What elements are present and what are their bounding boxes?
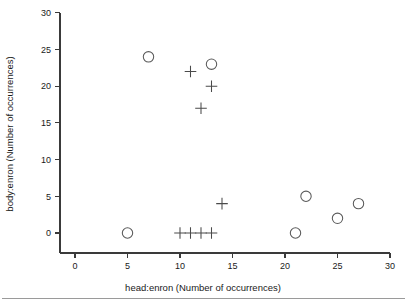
y-tick-label: 25 bbox=[41, 45, 51, 55]
x-tick-label: 15 bbox=[227, 261, 237, 271]
y-axis-label: body:enron (Number of occurrences) bbox=[4, 56, 15, 211]
y-tick-label: 30 bbox=[41, 8, 51, 18]
x-tick-label: 30 bbox=[385, 261, 395, 271]
y-tick-label: 15 bbox=[41, 118, 51, 128]
x-axis-label: head:enron (Number of occurrences) bbox=[125, 282, 281, 293]
scatter-plot-figure: 051015202530 051015202530 head:enron (Nu… bbox=[0, 0, 407, 304]
x-tick-label: 25 bbox=[332, 261, 342, 271]
x-tick-label: 5 bbox=[125, 261, 130, 271]
y-tick-label: 20 bbox=[41, 81, 51, 91]
y-tick-label: 0 bbox=[46, 228, 51, 238]
figure-background bbox=[0, 0, 407, 304]
y-tick-label: 10 bbox=[41, 155, 51, 165]
x-tick-label: 10 bbox=[175, 261, 185, 271]
x-tick-label: 20 bbox=[280, 261, 290, 271]
y-tick-label: 5 bbox=[46, 192, 51, 202]
x-tick-label: 0 bbox=[72, 261, 77, 271]
